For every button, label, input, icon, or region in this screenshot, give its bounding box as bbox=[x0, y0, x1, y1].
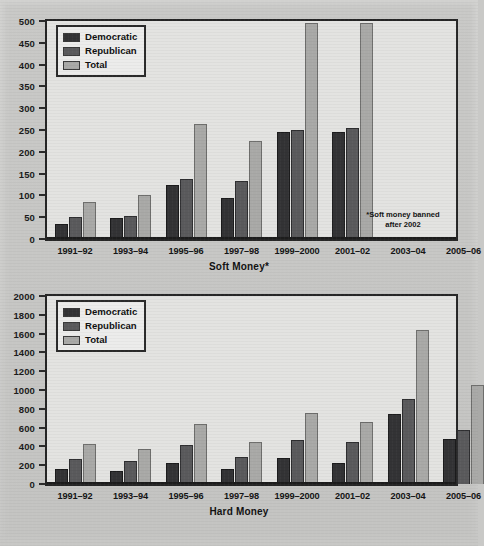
soft-money-chart: 500450400350300250200150100500 1991–9219… bbox=[0, 4, 478, 276]
bar-republican bbox=[346, 442, 359, 484]
soft-money-axis-title: Soft Money* bbox=[0, 261, 478, 272]
legend-swatch-total-icon bbox=[63, 61, 80, 70]
bar-republican bbox=[457, 430, 470, 484]
bar-total bbox=[249, 141, 262, 239]
bar-group bbox=[221, 296, 262, 484]
bar-democratic bbox=[332, 132, 345, 239]
bar-democratic bbox=[443, 439, 456, 484]
y-tick-label: 0 bbox=[30, 234, 35, 245]
legend-swatch-total-icon bbox=[63, 336, 80, 345]
bar-total bbox=[249, 442, 262, 484]
x-tick-label: 2001–02 bbox=[335, 246, 370, 256]
y-tick-label: 2000 bbox=[13, 291, 35, 302]
bar-total bbox=[305, 23, 318, 239]
legend-item-democratic: Democratic bbox=[63, 306, 137, 318]
x-tick-label: 2003–04 bbox=[390, 491, 425, 501]
x-axis-baseline bbox=[47, 237, 456, 239]
bar-democratic bbox=[277, 458, 290, 484]
bar-total bbox=[416, 330, 429, 484]
bar-republican bbox=[291, 130, 304, 239]
y-tick-label: 0 bbox=[30, 479, 35, 490]
x-tick-label: 1999–2000 bbox=[274, 491, 319, 501]
y-tick-label: 1800 bbox=[13, 309, 35, 320]
bar-group bbox=[332, 21, 373, 239]
bar-democratic bbox=[277, 132, 290, 239]
x-axis-baseline bbox=[47, 482, 456, 484]
hard-money-chart: 2000180016001400120010008006004002000 19… bbox=[0, 282, 478, 538]
x-tick-label: 1991–92 bbox=[57, 246, 92, 256]
y-tick-label: 150 bbox=[19, 168, 35, 179]
y-tick-label: 500 bbox=[19, 16, 35, 27]
bar-total bbox=[138, 195, 151, 239]
soft-money-y-axis: 500450400350300250200150100500 bbox=[0, 4, 43, 259]
bar-total bbox=[83, 202, 96, 239]
legend-label-total: Total bbox=[85, 60, 107, 70]
soft-money-legend: Democratic Republican Total bbox=[56, 25, 146, 77]
bar-republican bbox=[180, 445, 193, 484]
hard-money-legend: Democratic Republican Total bbox=[56, 300, 146, 352]
bar-democratic bbox=[221, 198, 234, 239]
x-tick-label: 1993–94 bbox=[113, 246, 148, 256]
bar-group bbox=[277, 296, 318, 484]
legend-label-total: Total bbox=[85, 335, 107, 345]
legend-label-democratic: Democratic bbox=[85, 307, 137, 317]
y-tick-label: 1600 bbox=[13, 328, 35, 339]
y-tick-label: 300 bbox=[19, 103, 35, 114]
y-tick-label: 1000 bbox=[13, 385, 35, 396]
legend-item-republican: Republican bbox=[63, 320, 137, 332]
bar-republican bbox=[291, 440, 304, 484]
bar-total bbox=[194, 124, 207, 239]
y-tick-label: 450 bbox=[19, 37, 35, 48]
x-tick-label: 2003–04 bbox=[390, 246, 425, 256]
bar-democratic bbox=[166, 185, 179, 239]
y-tick-label: 1200 bbox=[13, 366, 35, 377]
bar-republican bbox=[235, 457, 248, 484]
bar-group bbox=[166, 21, 207, 239]
soft-money-footnote: *Soft money banned after 2002 bbox=[352, 210, 454, 231]
legend-swatch-republican-icon bbox=[63, 322, 80, 331]
bar-group bbox=[166, 296, 207, 484]
bar-group bbox=[221, 21, 262, 239]
bar-total bbox=[471, 385, 484, 484]
y-tick-label: 400 bbox=[19, 441, 35, 452]
legend-label-republican: Republican bbox=[85, 321, 137, 331]
x-tick-label: 1993–94 bbox=[113, 491, 148, 501]
legend-swatch-democratic-icon bbox=[63, 33, 80, 42]
y-tick-label: 400 bbox=[19, 59, 35, 70]
bar-group bbox=[443, 296, 484, 484]
x-tick-label: 1997–98 bbox=[224, 491, 259, 501]
bar-total bbox=[138, 449, 151, 484]
bar-democratic bbox=[166, 463, 179, 484]
bar-republican bbox=[235, 181, 248, 239]
y-tick-label: 350 bbox=[19, 81, 35, 92]
y-tick-label: 1400 bbox=[13, 347, 35, 358]
y-tick-label: 50 bbox=[24, 212, 35, 223]
x-tick-label: 1995–96 bbox=[168, 491, 203, 501]
x-tick-label: 1991–92 bbox=[57, 491, 92, 501]
bar-republican bbox=[69, 459, 82, 484]
bar-democratic bbox=[388, 414, 401, 484]
y-tick-label: 200 bbox=[19, 146, 35, 157]
bar-democratic bbox=[332, 463, 345, 484]
y-tick-label: 100 bbox=[19, 190, 35, 201]
bar-total bbox=[305, 413, 318, 484]
bar-total bbox=[360, 422, 373, 484]
hard-money-axis-title: Hard Money bbox=[0, 506, 478, 517]
bar-democratic bbox=[110, 218, 123, 239]
legend-item-total: Total bbox=[63, 334, 137, 346]
y-tick-label: 200 bbox=[19, 460, 35, 471]
y-tick-label: 800 bbox=[19, 403, 35, 414]
bar-republican bbox=[124, 461, 137, 484]
legend-label-democratic: Democratic bbox=[85, 32, 137, 42]
x-tick-label: 1995–96 bbox=[168, 246, 203, 256]
legend-item-total: Total bbox=[63, 59, 137, 71]
bar-total bbox=[360, 23, 373, 239]
bar-republican bbox=[124, 216, 137, 239]
bar-republican bbox=[69, 217, 82, 239]
bar-group bbox=[332, 296, 373, 484]
bar-group bbox=[388, 296, 429, 484]
bar-group bbox=[443, 21, 484, 239]
x-tick-label: 1999–2000 bbox=[274, 246, 319, 256]
legend-swatch-republican-icon bbox=[63, 47, 80, 56]
legend-label-republican: Republican bbox=[85, 46, 137, 56]
